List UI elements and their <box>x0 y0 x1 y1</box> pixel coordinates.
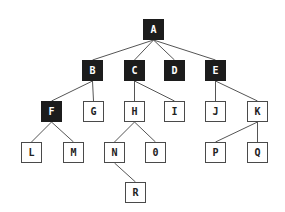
edge-c-i <box>135 81 175 101</box>
node-m: M <box>63 142 84 163</box>
node-a: A <box>143 19 164 40</box>
node-d: D <box>164 60 185 81</box>
node-l: L <box>21 142 42 163</box>
edge-f-l <box>32 122 52 142</box>
edge-h-o <box>135 122 156 142</box>
node-k: K <box>247 101 268 122</box>
node-b: B <box>82 60 103 81</box>
node-h: H <box>124 101 145 122</box>
node-g: G <box>83 101 104 122</box>
edge-e-k <box>216 81 258 101</box>
node-i: I <box>164 101 185 122</box>
node-j: J <box>205 101 226 122</box>
edge-k-p <box>216 122 258 142</box>
edge-n-r <box>115 163 136 182</box>
node-r: R <box>125 182 146 203</box>
edge-a-e <box>154 40 216 60</box>
node-p: P <box>205 142 226 163</box>
tree-diagram: A B C D E F G H I J K L M N 0 P Q R <box>0 0 285 212</box>
node-n: N <box>104 142 125 163</box>
node-f: F <box>41 101 62 122</box>
node-e: E <box>205 60 226 81</box>
edge-b-f <box>52 81 93 101</box>
node-o: 0 <box>145 142 166 163</box>
edge-h-n <box>115 122 135 142</box>
node-q: Q <box>247 142 268 163</box>
edge-f-m <box>52 122 74 142</box>
node-c: C <box>124 60 145 81</box>
edge-b-g <box>93 81 94 101</box>
